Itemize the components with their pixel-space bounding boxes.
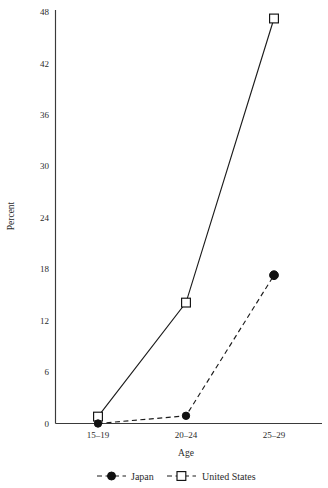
legend-label-united-states: United States (202, 471, 256, 482)
chart-background (0, 0, 328, 488)
y-tick-label-36: 36 (40, 110, 50, 120)
data-point-united-states-25-29 (270, 14, 279, 23)
y-tick-label-24: 24 (40, 213, 50, 223)
y-tick-label-48: 48 (40, 7, 50, 17)
data-point-japan-15-19 (94, 420, 101, 427)
legend-item-united-states: United States (167, 471, 256, 482)
chart-container: 0 6 12 18 24 30 36 42 48 Percent 15–19 2… (0, 0, 328, 488)
legend-label-japan: Japan (131, 471, 154, 482)
legend-marker-japan-circle-icon (108, 472, 116, 480)
data-point-japan-20-24 (182, 412, 189, 419)
y-tick-label-6: 6 (45, 367, 50, 377)
x-tick-label-20-24: 20–24 (175, 430, 198, 440)
y-tick-label-12: 12 (40, 316, 49, 326)
data-point-united-states-20-24 (182, 298, 191, 307)
legend-marker-united-states-square-icon (177, 472, 186, 481)
y-tick-label-18: 18 (40, 264, 50, 274)
x-tick-label-25-29: 25–29 (263, 430, 286, 440)
data-point-japan-25-29 (270, 271, 279, 280)
y-tick-label-0: 0 (45, 419, 50, 429)
y-tick-label-42: 42 (40, 59, 49, 69)
x-axis-title: Age (178, 448, 194, 458)
x-tick-label-15-19: 15–19 (87, 430, 110, 440)
line-chart: 0 6 12 18 24 30 36 42 48 Percent 15–19 2… (0, 0, 328, 488)
y-axis-title: Percent (6, 201, 16, 230)
y-tick-label-30: 30 (40, 161, 50, 171)
